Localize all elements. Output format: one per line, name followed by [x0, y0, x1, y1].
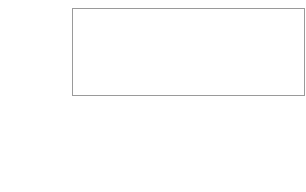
chart-area	[29, 8, 306, 96]
table-corner-cell	[29, 96, 306, 110]
series-lines	[73, 9, 304, 95]
chart-figure	[0, 0, 306, 192]
data-table	[29, 96, 306, 110]
plot-region	[72, 8, 305, 96]
y-axis-title	[11, 6, 23, 102]
y-axis-tick-labels	[29, 8, 69, 96]
table-header	[29, 96, 306, 110]
table-header-row	[29, 96, 306, 110]
